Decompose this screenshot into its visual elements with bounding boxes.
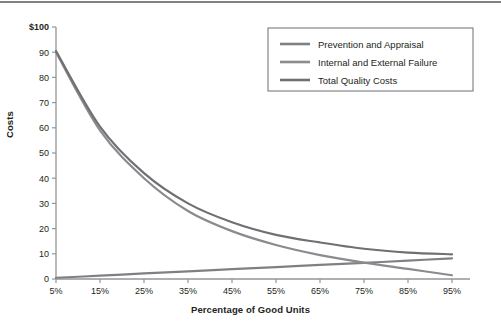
y-axis-title: Costs <box>4 111 15 138</box>
x-tick-label: 55% <box>267 286 285 296</box>
y-tick-label: 20 <box>39 224 49 234</box>
x-tick-label: 65% <box>311 286 329 296</box>
y-tick-label: $100 <box>29 22 49 32</box>
legend-label: Prevention and Appraisal <box>318 39 424 50</box>
series-line <box>56 258 452 277</box>
legend-label: Internal and External Failure <box>318 57 437 68</box>
y-tick-label: 30 <box>39 199 49 209</box>
y-tick-label: 40 <box>39 174 49 184</box>
y-tick-label: 70 <box>39 98 49 108</box>
quality-costs-line-chart: $1009080706050403020100 5%15%25%35%45%55… <box>0 0 501 326</box>
y-tick-label: 80 <box>39 73 49 83</box>
y-tick-label: 0 <box>44 274 49 284</box>
x-tick-label: 85% <box>399 286 417 296</box>
y-tick-label: 10 <box>39 249 49 259</box>
y-tick-label: 50 <box>39 148 49 158</box>
x-tick-label: 25% <box>135 286 153 296</box>
x-tick-label: 35% <box>179 286 197 296</box>
chart-legend: Prevention and AppraisalInternal and Ext… <box>268 28 473 91</box>
x-tick-label: 95% <box>443 286 461 296</box>
x-tick-label: 45% <box>223 286 241 296</box>
chart-container: $1009080706050403020100 5%15%25%35%45%55… <box>0 0 501 326</box>
x-tick-label: 75% <box>355 286 373 296</box>
x-tick-label: 15% <box>91 286 109 296</box>
x-axis-title: Percentage of Good Units <box>0 304 501 315</box>
x-tick-label: 5% <box>49 286 62 296</box>
legend-label: Total Quality Costs <box>318 75 397 86</box>
y-tick-label: 60 <box>39 123 49 133</box>
y-tick-label: 90 <box>39 48 49 58</box>
x-axis-ticks: 5%15%25%35%45%55%65%75%85%95% <box>49 279 461 296</box>
y-axis-ticks: $1009080706050403020100 <box>29 22 56 284</box>
